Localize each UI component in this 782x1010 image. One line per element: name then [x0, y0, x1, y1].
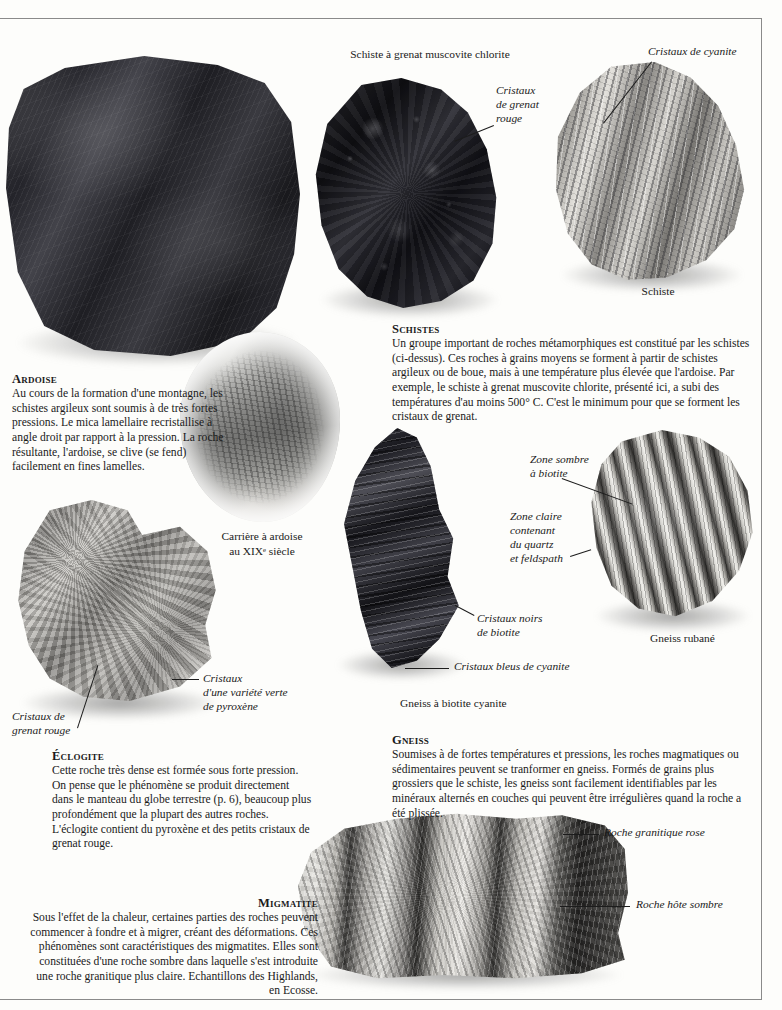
photo-gneiss-a-biotite-cyanite: [330, 428, 470, 668]
section-migmatite-heading: Migmatite: [30, 896, 318, 910]
section-eclogite: Éclogite Cette roche très dense est form…: [52, 749, 312, 852]
label-cristaux-de-grenat-rouge-line2: de grenat: [496, 98, 582, 112]
section-ardoise-heading: Ardoise: [12, 372, 227, 386]
label-cristaux-de-grenat-rouge-line3: rouge: [496, 112, 582, 126]
label-cristaux-variete-verte-line1: Cristaux: [203, 672, 343, 686]
section-migmatite-body: Sous l'effet de la chaleur, certaines pa…: [30, 911, 318, 998]
caption-gneiss-a-biotite-cyanite: Gneiss à biotite cyanite: [400, 697, 580, 711]
section-schistes: Schistes Un groupe important de roches m…: [392, 322, 750, 425]
caption-carriere-line1: Carrière à ardoise: [192, 530, 332, 544]
label-cristaux-variete-verte-line2: d'une variété verte: [203, 686, 353, 700]
caption-schiste: Schiste: [598, 285, 718, 299]
label-zone-claire-line4: et feldspath: [510, 552, 620, 566]
label-cristaux-variete-verte-line3: de pyroxène: [203, 700, 353, 714]
section-schistes-body: Un groupe important de roches métamorphi…: [392, 337, 750, 424]
label-zone-claire-line2: contenant: [510, 524, 620, 538]
caption-carriere-line2: au XIXᵉ siècle: [192, 545, 332, 559]
label-cristaux-noirs-line1: Cristaux noirs: [477, 612, 597, 626]
label-cristaux-grenat-rouge-eclogite-line1: Cristaux de: [12, 710, 122, 724]
label-cristaux-de-grenat-rouge-line1: Cristaux: [496, 84, 582, 98]
label-cristaux-de-cyanite: Cristaux de cyanite: [648, 45, 778, 59]
section-eclogite-heading: Éclogite: [52, 749, 312, 763]
label-zone-sombre-line2: à biotite: [530, 467, 640, 481]
leader-cristaux-bleus-de-cyanite: [405, 668, 449, 669]
label-roche-granitique-rose: Roche granitique rose: [604, 826, 754, 840]
photo-migmatite: [298, 812, 628, 980]
label-roche-hote-sombre: Roche hôte sombre: [636, 898, 782, 912]
label-zone-claire-line1: Zone claire: [510, 510, 620, 524]
label-cristaux-grenat-rouge-eclogite-line2: grenat rouge: [12, 724, 122, 738]
section-eclogite-body: Cette roche très dense est formée sous f…: [52, 764, 312, 851]
caption-gneiss-rubane: Gneiss rubané: [650, 632, 760, 646]
section-ardoise-body: Au cours de la formation d'une montagne,…: [12, 387, 227, 474]
photo-ardoise-slate-slab: [6, 56, 300, 356]
photo-eclogite: [12, 498, 222, 703]
leader-roche-granitique-rose: [563, 834, 599, 835]
leader-cristaux-variete-verte: [172, 679, 199, 680]
section-gneiss-heading: Gneiss: [392, 733, 752, 747]
section-ardoise: Ardoise Au cours de la formation d'une m…: [12, 372, 227, 475]
label-zone-sombre-line1: Zone sombre: [530, 453, 640, 467]
photo-schiste-a-grenat-muscovite-chlorite: [312, 78, 502, 308]
section-migmatite: Migmatite Sous l'effet de la chaleur, ce…: [30, 896, 318, 999]
leader-roche-hote-sombre: [560, 906, 630, 907]
label-zone-claire-line3: du quartz: [510, 538, 620, 552]
section-gneiss-body: Soumises à de fortes températures et pre…: [392, 748, 752, 821]
label-cristaux-noirs-line2: de biotite: [477, 626, 597, 640]
section-schistes-heading: Schistes: [392, 322, 750, 336]
section-gneiss: Gneiss Soumises à de fortes températures…: [392, 733, 752, 821]
caption-schiste-grenat-muscovite-chlorite: Schiste à grenat muscovite chlorite: [330, 48, 530, 62]
label-cristaux-bleus-de-cyanite: Cristaux bleus de cyanite: [454, 660, 629, 674]
